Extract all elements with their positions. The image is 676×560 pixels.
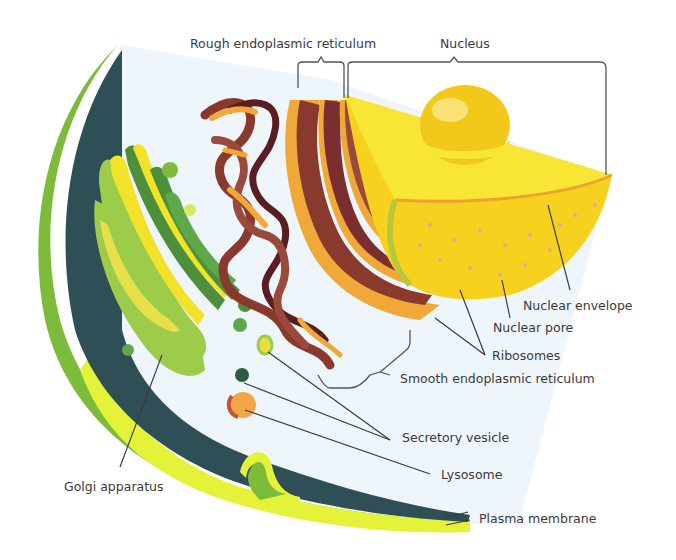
cell-diagram: Rough endoplasmic reticulum Nucleus Nucl… <box>0 0 676 560</box>
label-nuclear-envelope: Nuclear envelope <box>523 300 633 313</box>
label-lysosome: Lysosome <box>441 469 502 482</box>
secretory-vesicle-light <box>258 336 272 354</box>
label-secretory-vesicle: Secretory vesicle <box>402 432 509 445</box>
label-ribosomes: Ribosomes <box>492 350 560 363</box>
label-nucleus: Nucleus <box>440 38 490 51</box>
label-plasma-membrane: Plasma membrane <box>479 513 596 526</box>
label-smooth-er: Smooth endoplasmic reticulum <box>400 373 595 386</box>
label-nuclear-pore: Nuclear pore <box>493 322 573 335</box>
label-golgi: Golgi apparatus <box>64 481 164 494</box>
cell-illustration <box>0 0 676 560</box>
label-rough-er: Rough endoplasmic reticulum <box>190 38 376 51</box>
secretory-vesicle-dark <box>235 368 249 382</box>
